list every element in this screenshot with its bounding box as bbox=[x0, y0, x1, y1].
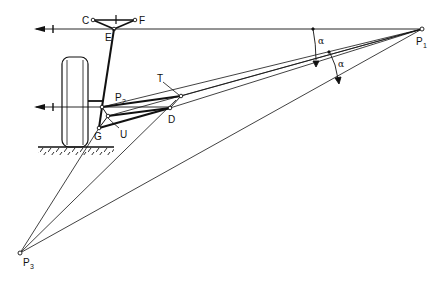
label-T: T bbox=[157, 73, 163, 84]
label-P1-sub: 1 bbox=[423, 42, 427, 49]
arrowhead-icon bbox=[34, 26, 45, 32]
label-P1: P bbox=[416, 36, 423, 47]
label-U: U bbox=[120, 129, 127, 140]
steering-linkage bbox=[91, 15, 137, 31]
suspension-diagram: C F E P 2 T D U G P 1 P 3 α α bbox=[0, 0, 436, 281]
label-P2: P bbox=[115, 92, 122, 103]
arrowhead-icon bbox=[34, 104, 45, 110]
label-F: F bbox=[139, 15, 145, 26]
construction-lines-p3 bbox=[20, 100, 176, 253]
label-alpha-lower: α bbox=[338, 59, 344, 69]
label-P3-sub: 3 bbox=[30, 263, 34, 270]
ground bbox=[38, 147, 114, 155]
label-C: C bbox=[82, 15, 89, 26]
label-alpha-upper: α bbox=[318, 36, 324, 46]
upper-axis bbox=[34, 25, 422, 33]
construction-lines-p1 bbox=[20, 29, 422, 253]
label-D: D bbox=[168, 114, 175, 125]
label-G: G bbox=[94, 131, 102, 142]
wheel bbox=[62, 57, 88, 147]
label-P2-sub: 2 bbox=[122, 98, 126, 105]
label-P3: P bbox=[23, 257, 30, 268]
label-E: E bbox=[105, 32, 112, 43]
diagram-canvas: C F E P 2 T D U G P 1 P 3 α α bbox=[0, 0, 436, 281]
